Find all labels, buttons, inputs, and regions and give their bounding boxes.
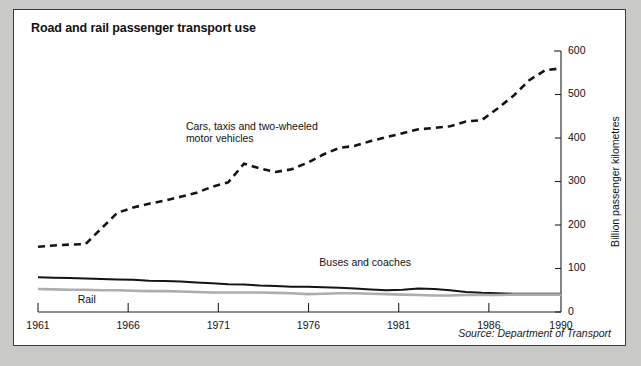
y-axis-tick-label-200: 200 <box>568 218 586 230</box>
series-label-buses: Buses and coaches <box>319 256 411 268</box>
chart-card: Road and rail passenger transport use 01… <box>13 9 626 346</box>
chart-annotations: Cars, taxis and two-wheeledmotor vehicle… <box>78 120 411 305</box>
y-axis-tick-label-600: 600 <box>568 44 586 56</box>
y-axis-tick-label-0: 0 <box>568 305 574 317</box>
y-axis-tick-label-400: 400 <box>568 131 586 143</box>
series-label-cars-line2: motor vehicles <box>186 132 254 144</box>
figure-root: Road and rail passenger transport use 01… <box>0 0 641 366</box>
series-label-cars: Cars, taxis and two-wheeled <box>186 120 318 132</box>
x-axis-tick-label-1961: 1961 <box>26 319 50 331</box>
x-axis-tick-label-1966: 1966 <box>116 319 140 331</box>
y-axis-tick-label-100: 100 <box>568 261 586 273</box>
x-axis-tick-label-1971: 1971 <box>207 319 231 331</box>
source-note: Source: Department of Transport <box>458 327 611 339</box>
series-line-cars <box>38 68 561 246</box>
y-axis-title: Billion passenger kilometres <box>609 116 621 247</box>
y-axis-tick-label-500: 500 <box>568 87 586 99</box>
x-axis-tick-label-1976: 1976 <box>297 319 321 331</box>
y-axis-tick-label-300: 300 <box>568 174 586 186</box>
series-label-rail: Rail <box>78 293 96 305</box>
x-axis-tick-label-1981: 1981 <box>387 319 411 331</box>
line-chart: 0100200300400500600196119661971197619811… <box>14 10 627 347</box>
chart-series <box>38 68 561 295</box>
